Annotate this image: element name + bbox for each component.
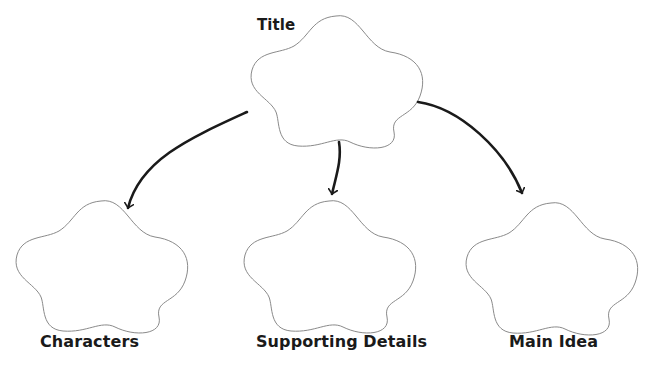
diagram-canvas <box>0 0 651 365</box>
node-characters-shape <box>16 201 188 333</box>
arrow-to-main-idea <box>418 102 522 193</box>
node-main-idea-label: Main Idea <box>509 332 598 351</box>
arrow-to-characters <box>128 112 247 208</box>
node-title-label: Title <box>257 16 295 34</box>
node-main-idea-shape <box>466 203 638 335</box>
node-characters-label: Characters <box>40 332 139 351</box>
node-title-shape <box>251 16 423 148</box>
arrow-to-supporting-details <box>332 142 340 194</box>
node-supporting-details-label: Supporting Details <box>256 332 427 351</box>
node-supporting-details-shape <box>244 201 416 333</box>
